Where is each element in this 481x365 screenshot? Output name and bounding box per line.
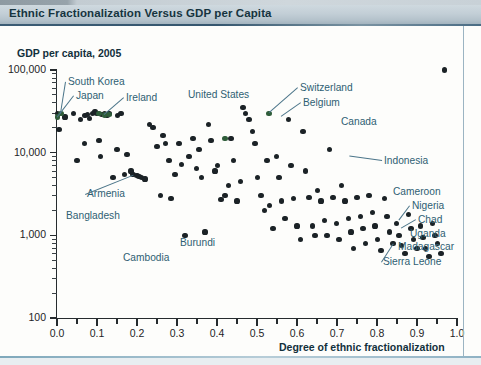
data-point <box>274 154 279 159</box>
data-point <box>208 138 213 143</box>
x-tick-major <box>416 319 417 326</box>
data-point <box>212 168 217 173</box>
x-tick-minor <box>196 319 197 324</box>
y-tick-major <box>50 235 57 236</box>
annotation-label: Belgium <box>303 97 340 108</box>
data-point <box>215 163 220 168</box>
x-tick-label: 0.9 <box>397 327 437 339</box>
data-point <box>231 158 236 163</box>
data-point <box>294 223 299 228</box>
data-point <box>118 111 123 116</box>
data-point <box>360 226 365 231</box>
x-tick-major <box>336 319 337 326</box>
data-point <box>255 175 260 180</box>
data-point <box>279 198 284 203</box>
data-point <box>160 133 165 138</box>
x-tick-label: 0.4 <box>197 327 237 339</box>
data-point <box>270 226 275 231</box>
data-point <box>288 163 293 168</box>
annotation-label: Canada <box>341 116 377 127</box>
data-point <box>354 195 359 200</box>
data-point <box>142 176 147 181</box>
x-tick-minor <box>156 319 157 324</box>
x-tick-label: 0.0 <box>37 327 77 339</box>
data-point <box>276 175 281 180</box>
x-axis-title: Degree of ethnic fractionalization <box>279 341 445 353</box>
data-point <box>336 237 341 242</box>
page-title: Ethnic Fractionalization Versus GDP per … <box>9 7 272 19</box>
data-point <box>194 166 199 171</box>
data-point <box>258 193 263 198</box>
x-tick-label: 0.5 <box>237 327 277 339</box>
data-point <box>282 216 287 221</box>
x-tick-minor <box>356 319 357 324</box>
annotation-label: United States <box>188 89 249 100</box>
data-point <box>312 233 317 238</box>
data-point <box>384 214 389 219</box>
data-point <box>348 229 353 234</box>
data-point <box>82 141 87 146</box>
data-point <box>363 241 368 246</box>
data-point <box>442 67 447 72</box>
data-point <box>110 175 115 180</box>
data-point <box>56 127 61 132</box>
data-point <box>358 214 363 219</box>
annotation-label: Switzerland <box>300 82 353 93</box>
data-point <box>396 233 401 238</box>
annotation-label: Madagascar <box>398 241 454 252</box>
x-tick-major <box>136 319 137 326</box>
x-tick-label: 0.8 <box>357 327 397 339</box>
x-tick-minor <box>116 319 117 324</box>
x-tick-minor <box>76 319 77 324</box>
data-point <box>122 172 127 177</box>
annotation-label: Japan <box>76 90 104 101</box>
data-point <box>298 237 303 242</box>
data-point <box>267 203 272 208</box>
data-point <box>324 233 329 238</box>
data-point <box>262 208 267 213</box>
data-point <box>202 229 207 234</box>
x-tick-minor <box>276 319 277 324</box>
data-point <box>291 196 296 201</box>
x-tick-minor <box>236 319 237 324</box>
data-point <box>226 183 231 188</box>
y-tick-major <box>50 69 57 70</box>
x-tick-major <box>296 319 297 326</box>
annotation-label: Indonesia <box>384 155 428 166</box>
data-point <box>315 188 320 193</box>
x-tick-major <box>376 319 377 326</box>
x-tick-major <box>256 319 257 326</box>
data-point <box>166 158 171 163</box>
data-point <box>339 183 344 188</box>
data-point <box>303 168 308 173</box>
data-point <box>300 129 305 134</box>
x-tick-minor <box>436 319 437 324</box>
data-point-highlighted <box>96 111 101 116</box>
data-point <box>387 229 392 234</box>
data-point <box>234 198 239 203</box>
data-point <box>330 195 335 200</box>
data-point <box>87 116 92 121</box>
data-point <box>378 248 383 253</box>
y-tick-label: 10,000 <box>0 146 46 158</box>
x-tick-label: 0.7 <box>317 327 357 339</box>
data-point <box>327 147 332 152</box>
x-tick-label: 0.6 <box>277 327 317 339</box>
x-tick-major <box>96 319 97 326</box>
annotation-label: Sierra Leone <box>383 256 441 267</box>
data-point <box>114 147 119 152</box>
data-point <box>346 216 351 221</box>
y-tick-major <box>50 152 57 153</box>
data-point <box>366 193 371 198</box>
data-point <box>71 111 76 116</box>
data-point-highlighted <box>222 136 227 141</box>
data-point <box>334 221 339 226</box>
data-point <box>351 246 356 251</box>
annotation-label: Bangladesh <box>66 210 120 221</box>
annotation-label: Chad <box>418 214 442 225</box>
data-point <box>250 129 255 134</box>
bottom-fill <box>0 358 481 365</box>
data-point <box>406 212 411 217</box>
annotation-label: Uganda <box>410 228 446 239</box>
data-point <box>158 193 163 198</box>
